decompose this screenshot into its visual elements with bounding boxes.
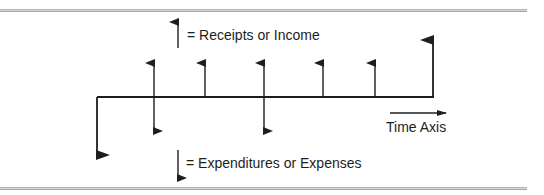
time-axis-label: Time Axis xyxy=(386,119,446,135)
receipts-legend-label: = Receipts or Income xyxy=(187,27,320,43)
expenditures-legend-label: = Expenditures or Expenses xyxy=(186,155,362,171)
